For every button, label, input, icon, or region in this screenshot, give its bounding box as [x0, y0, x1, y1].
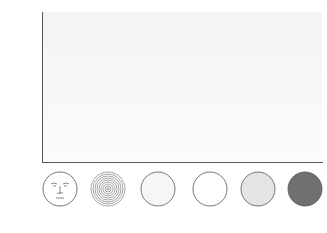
face-icon [42, 171, 78, 207]
red-disc-icon [287, 171, 323, 207]
newsprint-icon [140, 171, 176, 207]
x-axis [42, 162, 323, 163]
concentric-circles-icon [90, 171, 126, 207]
yellow-disc-icon [240, 171, 276, 207]
plot-area [42, 12, 322, 162]
white-disc-icon [192, 171, 228, 207]
y-axis [42, 12, 43, 163]
